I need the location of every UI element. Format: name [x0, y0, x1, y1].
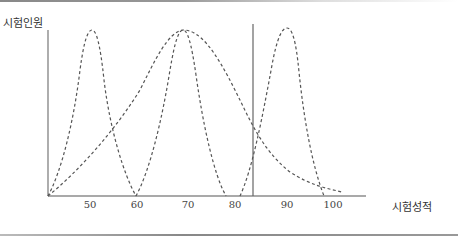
- curve-overall: [48, 30, 342, 196]
- curve-middle-group: [136, 30, 226, 196]
- x-tick-90: 90: [281, 199, 294, 210]
- x-tick-100: 100: [323, 199, 342, 210]
- curve-low-group: [48, 30, 136, 196]
- x-tick-70: 70: [182, 199, 195, 210]
- x-tick-60: 60: [131, 199, 144, 210]
- x-axis-label: 시험성적: [392, 198, 432, 214]
- bottom-rule: [0, 234, 458, 236]
- x-tick-50: 50: [84, 199, 97, 210]
- x-tick-80: 80: [229, 199, 242, 210]
